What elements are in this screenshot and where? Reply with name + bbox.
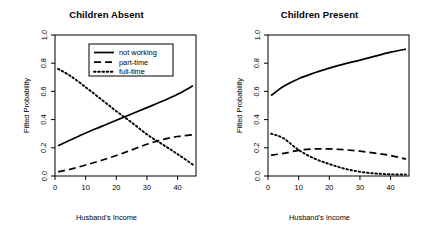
y-tick-label: 0.4	[253, 114, 262, 124]
x-tick-label: 30	[356, 183, 364, 192]
figure-canvas: Children Absent Fitted Probability Husba…	[0, 0, 427, 232]
y-tick-label: 0.0	[253, 171, 262, 181]
y-tick-label: 0.0	[40, 171, 49, 181]
y-tick-label: 0.8	[40, 58, 49, 68]
legend-label-full-time: full-time	[119, 67, 145, 76]
x-tick-label: 20	[325, 183, 333, 192]
panel-children-absent: Children Absent Fitted Probability Husba…	[0, 0, 213, 232]
plot-area-right: 0102030400.00.20.40.60.81.0	[213, 0, 426, 232]
x-tick-label: 10	[82, 183, 90, 192]
x-tick-label: 40	[173, 183, 181, 192]
plot-area-left: 0102030400.00.20.40.60.81.0not workingpa…	[0, 0, 213, 232]
y-tick-label: 0.2	[253, 143, 262, 153]
legend-label-not-working: not working	[119, 48, 157, 57]
y-tick-label: 0.6	[253, 86, 262, 96]
series-line-not-working	[271, 49, 406, 96]
x-tick-label: 10	[295, 183, 303, 192]
legend-label-part-time: part-time	[119, 58, 148, 67]
plot-frame	[268, 35, 409, 176]
y-tick-label: 0.2	[40, 143, 49, 153]
series-line-part-time	[271, 149, 406, 159]
legend: not workingpart-timefull-time	[89, 44, 173, 76]
x-tick-label: 0	[266, 183, 270, 192]
series-line-not-working	[58, 86, 193, 146]
series-line-part-time	[58, 135, 193, 172]
y-tick-label: 0.6	[40, 86, 49, 96]
y-tick-label: 0.8	[253, 58, 262, 68]
y-tick-label: 0.4	[40, 114, 49, 124]
y-tick-label: 1.0	[40, 30, 49, 40]
y-tick-label: 1.0	[253, 30, 262, 40]
panel-children-present: Children Present Fitted Probability Husb…	[213, 0, 426, 232]
x-tick-label: 20	[112, 183, 120, 192]
x-tick-label: 40	[386, 183, 394, 192]
x-tick-label: 0	[53, 183, 57, 192]
x-tick-label: 30	[143, 183, 151, 192]
